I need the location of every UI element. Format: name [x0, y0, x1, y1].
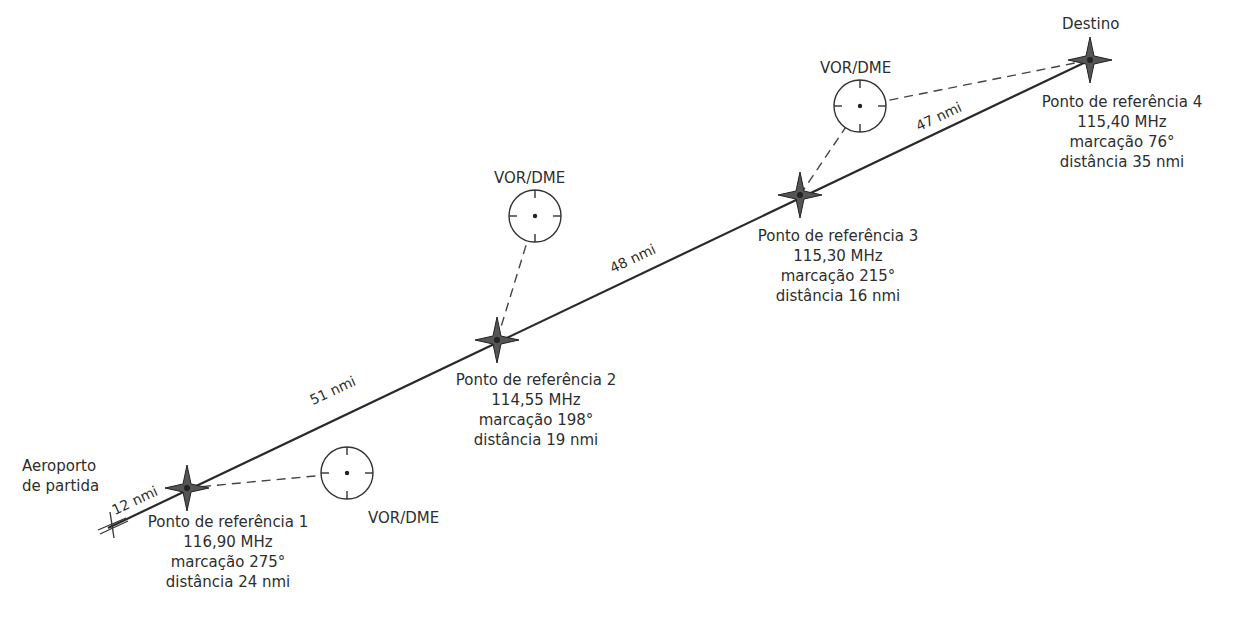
- vor-dme-icon-2: [509, 190, 561, 242]
- waypoint-info-4: Ponto de referência 4 115,40 MHz marcaçã…: [1032, 92, 1212, 172]
- waypoint-star-icon-3: [778, 172, 822, 218]
- waypoint-frequency: 116,90 MHz: [138, 532, 318, 552]
- waypoint-bearing: marcação 76°: [1032, 132, 1212, 152]
- waypoint-distance: distância 35 nmi: [1032, 152, 1212, 172]
- vor-dme-icon-3: [834, 80, 886, 132]
- departure-label-line2: de partida: [22, 476, 99, 496]
- waypoint-name: Ponto de referência 3: [748, 226, 928, 246]
- waypoint-info-2: Ponto de referência 2 114,55 MHz marcaçã…: [446, 370, 626, 450]
- waypoint-star-icon-2: [475, 317, 519, 363]
- departure-label: Aeroporto de partida: [22, 456, 99, 496]
- destination-star-icon: [1068, 37, 1112, 83]
- route-line: [108, 60, 1090, 528]
- vor-dme-label-2: VOR/DME: [494, 168, 565, 188]
- waypoint-bearing: marcação 275°: [138, 552, 318, 572]
- vor-dme-label-1: VOR/DME: [368, 508, 439, 528]
- waypoint-name: Ponto de referência 4: [1032, 92, 1212, 112]
- waypoint-name: Ponto de referência 2: [446, 370, 626, 390]
- waypoint-frequency: 115,30 MHz: [748, 246, 928, 266]
- waypoint-frequency: 114,55 MHz: [446, 390, 626, 410]
- vor-dme-label-3: VOR/DME: [820, 58, 891, 78]
- waypoint-info-3: Ponto de referência 3 115,30 MHz marcaçã…: [748, 226, 928, 306]
- departure-label-line1: Aeroporto: [22, 456, 99, 476]
- waypoint-bearing: marcação 198°: [446, 410, 626, 430]
- waypoint-star-icon-1: [165, 465, 209, 511]
- waypoint-distance: distância 16 nmi: [748, 286, 928, 306]
- waypoint-distance: distância 24 nmi: [138, 572, 318, 592]
- waypoint-info-1: Ponto de referência 1 116,90 MHz marcaçã…: [138, 512, 318, 592]
- waypoint-distance: distância 19 nmi: [446, 430, 626, 450]
- destination-label: Destino: [1062, 14, 1119, 34]
- vor-dme-icon-1: [321, 447, 373, 499]
- waypoint-frequency: 115,40 MHz: [1032, 112, 1212, 132]
- waypoint-bearing: marcação 215°: [748, 266, 928, 286]
- waypoint-name: Ponto de referência 1: [138, 512, 318, 532]
